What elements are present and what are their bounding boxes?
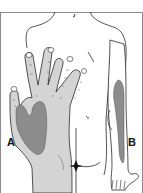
nail <box>26 53 32 58</box>
label-a: A <box>7 137 15 148</box>
nail <box>82 69 87 74</box>
anatomical-figure: A B <box>0 0 143 193</box>
nail <box>67 57 73 62</box>
nail <box>48 48 54 53</box>
nail <box>11 87 17 92</box>
figure-drawing <box>0 0 143 193</box>
label-b: B <box>128 137 136 148</box>
